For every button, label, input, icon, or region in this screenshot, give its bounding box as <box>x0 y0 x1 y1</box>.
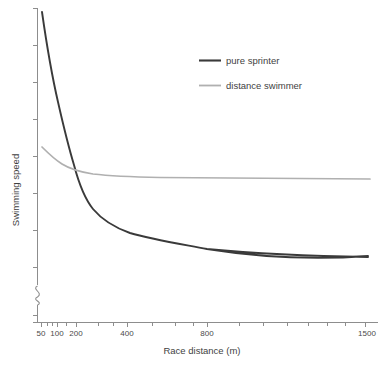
y-axis <box>33 8 39 322</box>
x-tick-label-200: 200 <box>69 329 83 338</box>
chart-plot: pure sprinter distance swimmer 50 100 20… <box>0 0 388 367</box>
x-tick-labels: 50 100 200 400 800 1500 <box>37 329 377 338</box>
series-line-pure-sprinter <box>42 12 368 258</box>
x-tick-label-400: 400 <box>120 329 134 338</box>
x-tick-label-50: 50 <box>37 329 46 338</box>
x-tick-label-800: 800 <box>200 329 214 338</box>
x-axis <box>33 323 378 328</box>
x-tick-label-100: 100 <box>50 329 64 338</box>
legend-label-pure-sprinter: pure sprinter <box>226 55 279 66</box>
x-tick-label-1500: 1500 <box>358 329 376 338</box>
chart-container: pure sprinter distance swimmer 50 100 20… <box>0 0 388 367</box>
legend-label-distance-swimmer: distance swimmer <box>226 80 302 91</box>
chart-legend: pure sprinter distance swimmer <box>199 55 302 91</box>
y-axis-title: Swimming speed <box>10 154 21 226</box>
series-line-distance-swimmer <box>42 147 370 179</box>
x-axis-title: Race distance (m) <box>163 345 240 356</box>
y-axis-break-icon <box>36 286 40 305</box>
